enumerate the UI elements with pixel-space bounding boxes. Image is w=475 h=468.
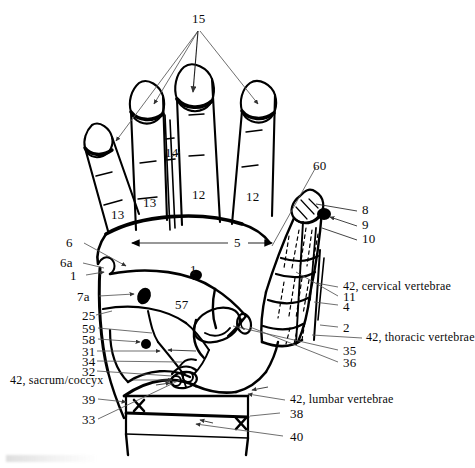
label-14-web: 14 [165, 146, 178, 159]
label-4-joint: 4 [343, 300, 350, 313]
label-1-palm-dot: 1 [190, 263, 197, 276]
label-13-ring-finger: 13 [143, 196, 156, 209]
label-13-little-finger: 13 [111, 208, 124, 221]
label-38-wrist: 38 [290, 407, 303, 420]
label-2-thumb-side: 2 [343, 321, 350, 334]
label-33-wrist: 33 [82, 413, 95, 426]
label-12-middle-finger: 12 [192, 188, 205, 201]
label-42-sacrum-coccyx: 42, sacrum/coccyx [10, 374, 103, 386]
label-8-thumb-tip: 8 [362, 203, 369, 216]
label-42-cervical-vertebrae: 42, cervical vertebrae [343, 280, 451, 292]
label-6-hand-edge: 6 [66, 236, 73, 249]
label-9-thumb-tip: 9 [362, 218, 369, 231]
label-1-hand-edge: 1 [70, 269, 77, 282]
label-15-fingertips: 15 [192, 12, 205, 25]
label-10-thumb-tip: 10 [362, 232, 375, 245]
hand-line-art [0, 0, 475, 468]
label-39-wrist: 39 [82, 393, 95, 406]
label-12-index-finger: 12 [246, 190, 259, 203]
label-7a-thenar: 7a [77, 290, 90, 303]
label-42-lumbar-vertebrae: 42, lumbar vertebrae [290, 393, 394, 405]
label-40-forearm: 40 [290, 430, 303, 443]
page-smudge [6, 455, 98, 462]
patent-figure-hand-reflexology: 15 14 13 13 12 12 5 60 8 9 10 6 6a 1 1 7… [0, 0, 475, 468]
label-42-thoracic-vertebrae: 42, thoracic vertebrae [366, 331, 475, 343]
label-57-palm: 57 [175, 298, 188, 311]
label-60-thumb: 60 [313, 159, 326, 172]
label-36-joint: 36 [343, 356, 356, 369]
label-5-palm-width: 5 [234, 236, 241, 249]
